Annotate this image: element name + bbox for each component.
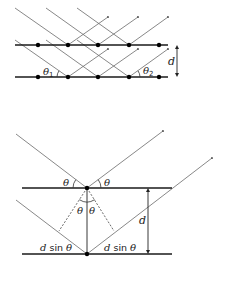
theta-inner-left-label: θ (77, 205, 83, 216)
theta2-label: θ2 (143, 65, 154, 78)
incident-ray-upper (16, 134, 87, 188)
theta-reflected-label: θ (104, 177, 110, 188)
atom-upper (85, 186, 89, 190)
reflected-rays (68, 17, 168, 77)
top-spacing-dimension: d (168, 45, 179, 77)
top-diagram: θ1 θ2 d (15, 8, 179, 79)
theta1-arc (57, 71, 59, 77)
path-diff-right-label: d sin θ (104, 242, 136, 253)
theta-inner-right-label: θ (89, 205, 95, 216)
atom-lower (85, 252, 89, 256)
path-diff-left-label: d sin θ (40, 242, 72, 253)
top-spacing-label: d (168, 55, 175, 68)
bragg-diffraction-figure: θ1 θ2 d θ θ θ (0, 0, 225, 283)
bottom-diagram: θ θ θ θ d sin θ d sin θ d (16, 131, 212, 256)
theta-arc-incident (73, 180, 76, 188)
bottom-spacing-dimension: d (139, 188, 150, 254)
theta-arc-reflected (98, 180, 101, 188)
theta-incident-label: θ (63, 177, 69, 188)
theta2-arc (138, 71, 140, 77)
bottom-spacing-label: d (139, 214, 146, 227)
reflected-ray-upper (87, 131, 163, 188)
reflected-ray-lower (87, 158, 212, 254)
